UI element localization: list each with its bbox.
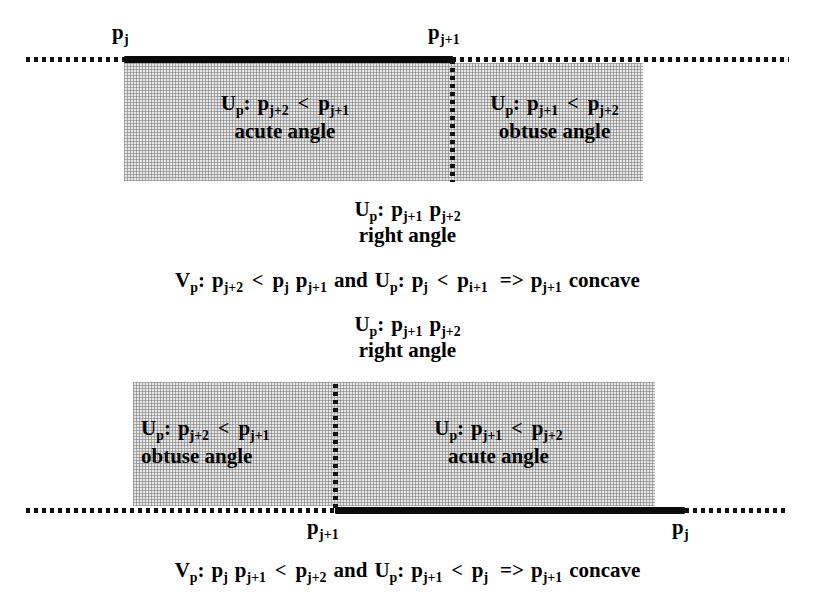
top-middle-second-sub: j+2 <box>441 209 460 224</box>
top-conclusion-u-sub: p <box>390 280 398 295</box>
top-vertical-divider <box>450 60 455 182</box>
bottom-left-angle-label: obtuse angle <box>141 443 331 471</box>
top-conclusion-f-base: p <box>531 268 543 292</box>
bottom-point-label-pj: pj <box>672 516 689 538</box>
top-right-case-text: Up:pj+1<pj+2 obtuse angle <box>462 90 647 145</box>
bottom-conclusion-a-base: p <box>212 558 224 582</box>
top-right-lhs-sub: j+1 <box>539 103 558 118</box>
bottom-conclusion-formula: Vp:pjpj+1<pj+2andUp:pj+1<pj=>pj+1concave <box>0 557 815 583</box>
top-conclusion-result: concave <box>569 268 640 292</box>
top-right-prefix-sub: p <box>505 103 513 118</box>
top-dotted-line-left <box>26 57 126 62</box>
bottom-conclusion-d-base: p <box>411 558 423 582</box>
bottom-left-lhs-sub: j+2 <box>190 428 209 443</box>
top-conclusion-c-sub: j+1 <box>307 280 326 295</box>
top-point-label-pj-sub: j <box>124 32 129 47</box>
bottom-conclusion-v-sub: p <box>190 570 198 585</box>
top-left-rhs-base: p <box>318 91 330 115</box>
bottom-middle-first-base: p <box>391 312 403 336</box>
bottom-middle-angle-label: right angle <box>0 337 815 363</box>
top-conclusion-v-sub: p <box>190 280 198 295</box>
top-conclusion-e-base: p <box>457 268 469 292</box>
top-right-prefix-base: U <box>490 91 505 115</box>
bottom-point-label-pj1-sub: j+1 <box>319 527 339 542</box>
bottom-right-prefix-sub: p <box>449 428 457 443</box>
bottom-right-case-text: Up:pj+1<pj+2 acute angle <box>366 415 631 470</box>
bottom-point-label-pj-base: p <box>672 515 684 539</box>
top-middle-prefix-sub: p <box>370 209 378 224</box>
bottom-left-colon: : <box>164 416 171 440</box>
bottom-point-label-pj1-base: p <box>307 515 319 539</box>
top-left-colon: : <box>244 91 251 115</box>
bottom-right-angle-label: acute angle <box>366 443 631 471</box>
top-left-case-text: Up:pj+2<pj+1 acute angle <box>160 90 410 145</box>
top-middle-right-angle-note: Up:pj+1pj+2 right angle <box>0 196 815 249</box>
top-conclusion-conj: and <box>334 268 368 292</box>
bottom-conclusion-f-base: p <box>531 558 543 582</box>
bottom-conclusion-b-base: p <box>235 558 247 582</box>
top-conclusion-op1: < <box>250 269 265 291</box>
top-conclusion-formula: Vp:pj+2<pjpj+1andUp:pj<pi+1=>pj+1concave <box>0 267 815 293</box>
top-right-rhs-base: p <box>588 91 600 115</box>
top-right-rhs-sub: j+2 <box>599 103 618 118</box>
bottom-left-lhs-base: p <box>178 416 190 440</box>
top-conclusion-u-base: U <box>375 268 390 292</box>
bottom-left-case-text: Up:pj+2<pj+1 obtuse angle <box>141 415 331 470</box>
bottom-middle-colon: : <box>377 312 384 336</box>
bottom-left-prefix-base: U <box>141 416 156 440</box>
bottom-left-rhs-base: p <box>238 416 250 440</box>
top-conclusion-colon1: : <box>198 268 205 292</box>
top-left-lhs-sub: j+2 <box>269 103 288 118</box>
top-dotted-line-right <box>452 57 789 62</box>
top-right-colon: : <box>513 91 520 115</box>
top-left-lhs-base: p <box>258 91 270 115</box>
bottom-conclusion-v-base: V <box>175 558 190 582</box>
bottom-left-condition: Up:pj+2<pj+1 <box>141 415 331 443</box>
top-conclusion-e-sub: i+1 <box>469 280 488 295</box>
bottom-conclusion-colon2: : <box>397 558 404 582</box>
bottom-conclusion-c-base: p <box>295 558 307 582</box>
top-right-angle-label: obtuse angle <box>462 118 647 146</box>
top-conclusion-op2: < <box>435 269 450 291</box>
bottom-right-operator: < <box>509 417 524 439</box>
top-conclusion-b-sub: j <box>284 280 289 295</box>
top-conclusion-implies: => <box>500 268 524 292</box>
bottom-right-lhs-sub: j+1 <box>483 428 502 443</box>
bottom-right-rhs-sub: j+2 <box>543 428 562 443</box>
bottom-middle-prefix-base: U <box>354 312 369 336</box>
top-conclusion-a-sub: j+2 <box>224 280 243 295</box>
top-middle-first-base: p <box>391 197 403 221</box>
top-left-condition: Up:pj+2<pj+1 <box>160 90 410 118</box>
top-point-label-pj: pj <box>112 21 129 43</box>
top-right-operator: < <box>565 92 580 114</box>
top-point-label-pj1-sub: j+1 <box>440 32 460 47</box>
top-conclusion-v-base: V <box>175 268 190 292</box>
top-right-lhs-base: p <box>527 91 539 115</box>
bottom-conclusion-op2: < <box>449 559 464 581</box>
bottom-dotted-line-left <box>26 508 336 513</box>
top-conclusion-b-base: p <box>272 268 284 292</box>
bottom-right-rhs-base: p <box>532 416 544 440</box>
bottom-middle-prefix-sub: p <box>370 324 378 339</box>
bottom-left-operator: < <box>216 417 231 439</box>
top-conclusion-d-base: p <box>412 268 424 292</box>
bottom-conclusion-op1: < <box>273 559 288 581</box>
bottom-conclusion-a-sub: j <box>223 570 228 585</box>
top-middle-angle-label: right angle <box>0 222 815 248</box>
top-middle-condition: Up:pj+1pj+2 <box>0 196 815 222</box>
bottom-point-label-pj-sub: j <box>684 527 689 542</box>
bottom-right-condition: Up:pj+1<pj+2 <box>366 415 631 443</box>
bottom-middle-right-angle-note: Up:pj+1pj+2 right angle <box>0 311 815 364</box>
top-left-prefix-sub: p <box>236 103 244 118</box>
bottom-middle-second-base: p <box>429 312 441 336</box>
bottom-middle-condition: Up:pj+1pj+2 <box>0 311 815 337</box>
top-conclusion-a-base: p <box>212 268 224 292</box>
bottom-dotted-line-right <box>685 508 789 513</box>
bottom-conclusion-colon1: : <box>198 558 205 582</box>
bottom-point-label-pj1: pj+1 <box>307 516 339 538</box>
bottom-conclusion-implies: => <box>500 558 524 582</box>
top-left-rhs-sub: j+1 <box>330 103 349 118</box>
top-right-condition: Up:pj+1<pj+2 <box>462 90 647 118</box>
top-point-label-pj1: pj+1 <box>428 21 460 43</box>
bottom-conclusion-e-base: p <box>472 558 484 582</box>
